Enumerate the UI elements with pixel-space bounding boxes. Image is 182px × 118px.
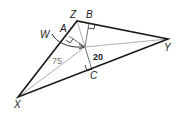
bisector-zw <box>77 21 85 47</box>
label-x: X <box>13 99 21 110</box>
label-b: B <box>86 9 93 20</box>
label-w: W <box>40 29 51 40</box>
triangle-diagram: Z B A W Y C X 75 20 <box>0 0 182 118</box>
label-c: C <box>90 70 98 81</box>
right-angle-a <box>66 39 73 43</box>
label-z: Z <box>69 9 77 20</box>
measure-xw: 75 <box>52 56 62 66</box>
perp-wb <box>85 23 89 47</box>
measure-wc: 20 <box>93 52 103 62</box>
perp-wc <box>85 47 92 70</box>
label-a: A <box>59 23 67 34</box>
label-y: Y <box>164 42 172 53</box>
